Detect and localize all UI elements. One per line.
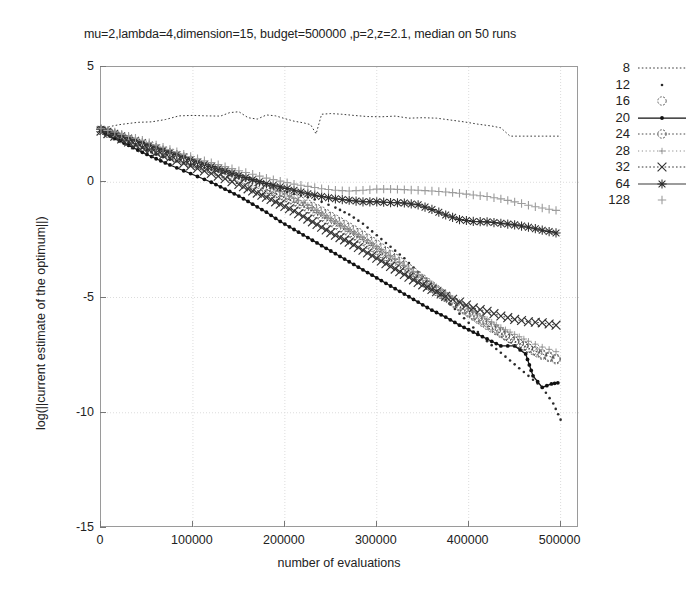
y-tick-label: -15: [48, 520, 94, 534]
legend-swatch-16: [636, 93, 688, 109]
legend-swatch-8: [636, 60, 688, 76]
legend-swatch-64: [636, 176, 688, 192]
x-tick-mark: [192, 521, 193, 527]
legend-label: 128: [596, 192, 630, 209]
legend-item-128[interactable]: 128: [596, 192, 690, 209]
legend-item-24[interactable]: 24: [596, 126, 690, 143]
x-tick-mark: [100, 521, 101, 527]
chart-legend: 812162024283264128: [596, 60, 690, 209]
y-tick-mark: [100, 66, 106, 67]
legend-item-20[interactable]: 20: [596, 110, 690, 127]
x-tick-label: 100000: [147, 533, 237, 547]
legend-label: 64: [596, 176, 630, 193]
y-tick-mark: [100, 181, 106, 182]
x-tick-mark: [560, 521, 561, 527]
x-tick-mark: [468, 521, 469, 527]
legend-swatch-12: [636, 77, 688, 93]
y-tick-label: 5: [48, 59, 94, 73]
chart-title: mu=2,lambda=4,dimension=15, budget=50000…: [0, 27, 600, 41]
x-tick-label: 500000: [515, 533, 605, 547]
legend-label: 28: [596, 143, 630, 160]
legend-item-16[interactable]: 16: [596, 93, 690, 110]
x-tick-label: 200000: [239, 533, 329, 547]
legend-label: 20: [596, 110, 630, 127]
legend-item-8[interactable]: 8: [596, 60, 690, 77]
legend-item-28[interactable]: 28: [596, 143, 690, 160]
legend-item-32[interactable]: 32: [596, 159, 690, 176]
y-tick-label: 0: [48, 174, 94, 188]
y-tick-label: -10: [48, 405, 94, 419]
legend-swatch-20: [636, 110, 688, 126]
legend-label: 32: [596, 159, 630, 176]
legend-label: 16: [596, 93, 630, 110]
legend-label: 24: [596, 126, 630, 143]
x-tick-label: 0: [55, 533, 145, 547]
series-plot: [101, 67, 579, 528]
plot-area: [100, 66, 578, 527]
y-tick-mark: [100, 412, 106, 413]
y-tick-mark: [100, 297, 106, 298]
y-tick-label: -5: [48, 290, 94, 304]
x-tick-mark: [284, 521, 285, 527]
legend-swatch-128: [636, 192, 688, 208]
legend-swatch-24: [636, 126, 688, 142]
y-tick-mark: [100, 527, 106, 528]
chart-page: mu=2,lambda=4,dimension=15, budget=50000…: [0, 0, 690, 592]
x-axis-title: number of evaluations: [100, 556, 578, 570]
legend-item-64[interactable]: 64: [596, 176, 690, 193]
x-tick-mark: [376, 521, 377, 527]
legend-swatch-32: [636, 159, 688, 175]
legend-swatch-28: [636, 143, 688, 159]
legend-item-12[interactable]: 12: [596, 77, 690, 94]
x-tick-label: 400000: [423, 533, 513, 547]
x-tick-label: 300000: [331, 533, 421, 547]
legend-label: 12: [596, 77, 630, 94]
y-axis-title: log(||current estimate of the optimum||): [34, 216, 48, 430]
legend-label: 8: [596, 60, 630, 77]
